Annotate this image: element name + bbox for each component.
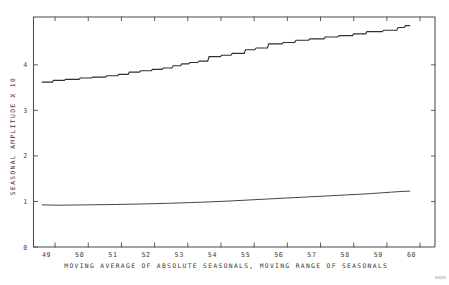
x-tick-label-52: 52: [141, 251, 150, 259]
y-tick-label-3: 3: [23, 107, 28, 115]
y-axis-title: SEASONAL AMPLITUDE X 10: [9, 77, 16, 195]
x-tick-label-53: 53: [175, 251, 184, 259]
corner-artifact: [435, 276, 446, 279]
chart-plot-area: 01234495051525354555657585960MOVING AVER…: [0, 0, 449, 285]
y-tick-label-4: 4: [23, 61, 28, 69]
x-tick-label-54: 54: [208, 251, 217, 259]
plot-frame: [34, 17, 436, 247]
x-tick-label-58: 58: [341, 251, 350, 259]
x-tick-label-50: 50: [75, 251, 84, 259]
x-tick-label-51: 51: [108, 251, 117, 259]
y-tick-label-1: 1: [23, 198, 28, 206]
x-tick-label-56: 56: [274, 251, 283, 259]
y-tick-label-2: 2: [23, 152, 28, 160]
x-axis-title: MOVING AVERAGE OF ABSOLUTE SEASONALS, MO…: [64, 262, 388, 269]
x-tick-label-49: 49: [42, 251, 51, 259]
x-tick-label-55: 55: [241, 251, 250, 259]
x-tick-label-60: 60: [407, 251, 416, 259]
series-moving-average-of-absolute-seasonals: [42, 191, 410, 205]
y-tick-label-0: 0: [23, 244, 28, 252]
chart-figure: 01234495051525354555657585960MOVING AVER…: [0, 0, 449, 285]
x-tick-label-59: 59: [374, 251, 383, 259]
series-moving-range-of-seasonals: [42, 26, 410, 82]
x-tick-label-57: 57: [307, 251, 316, 259]
